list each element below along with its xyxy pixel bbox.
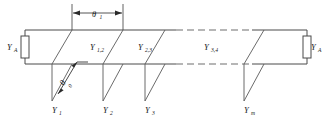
stub-m-symbol: Y: [244, 105, 250, 115]
stub-3-slant-edge: [145, 64, 165, 101]
right-termination-symbol: Y: [311, 42, 317, 52]
right-termination-group: Y A: [303, 36, 322, 58]
junction-line-m: [244, 30, 264, 64]
stub-length-subscript: 0: [67, 83, 74, 89]
stub-length-arrowhead-lower: [58, 89, 64, 94]
stub-length-arrowhead-upper: [71, 62, 77, 67]
spacing-dimension-group: θ 1: [72, 4, 123, 30]
right-termination-box: [303, 36, 311, 58]
dimension-arrowhead-left: [73, 11, 80, 16]
stub-2-slant-edge: [103, 64, 123, 101]
right-termination-subscript: A: [317, 47, 322, 53]
stub-length-annotation-group: θ 0: [57, 62, 88, 94]
stub-2-subscript: 2: [110, 110, 113, 116]
stub-m-subscript: m: [251, 110, 255, 116]
junction-line-1: [52, 30, 72, 64]
figure-container: θ 1 Y A: [0, 0, 332, 121]
section-1-2-symbol: Y: [90, 42, 96, 52]
left-termination-group: Y A: [7, 36, 29, 58]
transmission-line-rails: [25, 30, 307, 64]
junction-line-2: [103, 30, 123, 64]
line-section-labels-group: Y 1,2 Y 2,3 Y 3,4: [90, 42, 218, 53]
schematic-diagram: θ 1 Y A: [0, 0, 332, 121]
spacing-symbol: θ: [92, 9, 96, 19]
stub-2-group: Y 2: [103, 64, 123, 116]
spacing-subscript: 1: [100, 14, 103, 20]
stub-m-slant-edge: [244, 64, 264, 101]
section-3-4-symbol: Y: [204, 42, 210, 52]
junction-lines-group: [52, 30, 264, 64]
stub-1-symbol: Y: [52, 105, 58, 115]
stub-2-symbol: Y: [103, 105, 109, 115]
section-1-2-subscript: 1,2: [97, 47, 104, 53]
section-2-3-symbol: Y: [138, 42, 144, 52]
stub-m-group: Y m: [244, 64, 264, 116]
section-2-3-subscript: 2,3: [145, 47, 152, 53]
stub-3-group: Y 3: [145, 64, 165, 116]
left-termination-symbol: Y: [7, 42, 13, 52]
stub-3-subscript: 3: [151, 110, 155, 116]
section-3-4-subscript: 3,4: [210, 47, 218, 53]
left-termination-subscript: A: [13, 47, 18, 53]
dimension-arrowhead-right: [115, 11, 122, 16]
stub-3-symbol: Y: [145, 105, 151, 115]
left-termination-box: [21, 36, 29, 58]
stub-1-subscript: 1: [59, 110, 62, 116]
